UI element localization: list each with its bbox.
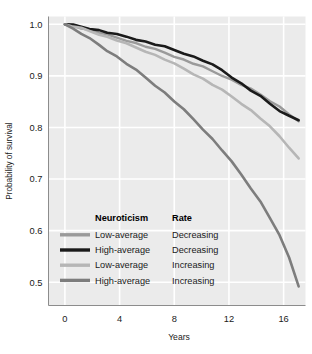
x-tick-label: 0 — [62, 314, 67, 324]
y-tick-label: 0.5 — [30, 278, 43, 288]
y-tick-label: 1.0 — [30, 20, 43, 30]
y-tick-label: 0.7 — [30, 174, 43, 184]
x-tick-label: 12 — [224, 314, 234, 324]
legend-neuroticism-label: Low-average — [95, 260, 148, 270]
x-tick-label: 4 — [117, 314, 122, 324]
legend-header-neuroticism: Neuroticism — [95, 213, 148, 223]
x-tick-label: 16 — [278, 314, 288, 324]
x-tick-label: 8 — [172, 314, 177, 324]
legend-neuroticism-label: High-average — [95, 245, 150, 255]
x-axis-title: Years — [168, 332, 190, 342]
legend-header-rate: Rate — [172, 213, 192, 223]
legend-rate-label: Decreasing — [172, 245, 218, 255]
legend-rate-label: Decreasing — [172, 230, 218, 240]
y-tick-label: 0.9 — [30, 71, 43, 81]
y-tick-label: 0.8 — [30, 123, 43, 133]
survival-chart-figure: 0.50.60.70.80.91.0 0481216 Years Probabi… — [0, 0, 312, 354]
legend-neuroticism-label: High-average — [95, 276, 150, 286]
survival-curve-chart: 0.50.60.70.80.91.0 0481216 Years Probabi… — [0, 0, 312, 354]
legend-neuroticism-label: Low-average — [95, 230, 148, 240]
legend-rate-label: Increasing — [172, 276, 214, 286]
legend-rate-label: Increasing — [172, 260, 214, 270]
y-tick-label: 0.6 — [30, 226, 43, 236]
y-axis-title: Probability of survival — [5, 122, 14, 200]
